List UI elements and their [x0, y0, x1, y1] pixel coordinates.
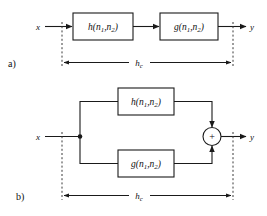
panel-a-dim-label-sub: c — [140, 62, 143, 69]
panel-b: b) x h(n1,n2) g(n1,n2) + — [16, 88, 254, 203]
panel-a-tag: a) — [8, 58, 16, 70]
panel-b-branch-up-wire — [80, 102, 118, 137]
panel-b-dim-label-sub: c — [140, 195, 143, 202]
panel-b-tag: b) — [16, 191, 24, 203]
panel-a-input-label: x — [35, 22, 40, 32]
panel-a-output-label: y — [249, 22, 254, 32]
panel-b-g-to-adder-wire — [174, 146, 212, 164]
panel-a-dim-label: hc — [135, 58, 143, 69]
panel-b-branch-down-wire — [80, 137, 118, 164]
panel-b-output-label: y — [249, 132, 254, 142]
panel-b-adder-plus-icon: + — [209, 131, 215, 142]
panel-b-input-label: x — [35, 132, 40, 142]
panel-a: a) x h(n1,n2) g(n1,n2) y hc — [8, 13, 254, 70]
panel-b-h-to-adder-wire — [174, 102, 212, 128]
figure-canvas: a) x h(n1,n2) g(n1,n2) y hc — [0, 0, 267, 216]
panel-b-dim-label: hc — [135, 191, 143, 202]
